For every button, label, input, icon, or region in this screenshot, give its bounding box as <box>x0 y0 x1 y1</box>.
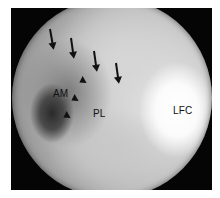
label-am: AM <box>53 88 68 99</box>
label-lfc: LFC <box>173 105 193 116</box>
arthroscopic-view <box>12 8 212 190</box>
label-pl: PL <box>93 108 106 119</box>
image-frame: AM PL LFC <box>11 8 212 190</box>
